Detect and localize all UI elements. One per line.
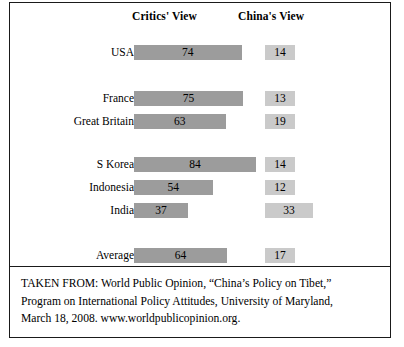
bar-value-china: 17	[274, 248, 286, 263]
bar-chinas-view: 12	[265, 180, 295, 195]
bar-value-critics: 37	[155, 203, 167, 218]
bar-chart-plot-area: USA7414France7513Great Britain6319S Kore…	[10, 29, 390, 264]
bar-chinas-view: 33	[265, 203, 313, 218]
bar-value-china: 19	[274, 114, 286, 129]
bar-value-china: 14	[274, 45, 286, 60]
bar-value-critics: 63	[174, 114, 186, 129]
bar-value-critics: 64	[175, 248, 187, 263]
bar-chinas-view: 14	[265, 45, 295, 60]
bar-row: Great Britain6319	[10, 114, 390, 129]
bar-row-label: Indonesia	[89, 180, 134, 195]
bar-row-label: Great Britain	[74, 114, 134, 129]
bar-chinas-view: 17	[265, 248, 295, 263]
column-header-chinas-view: China's View	[238, 10, 304, 22]
source-line-3: March 18, 2008. www.worldpublicopinion.o…	[21, 310, 380, 328]
bar-row: Indonesia5412	[10, 180, 390, 195]
bar-chinas-view: 19	[265, 114, 295, 129]
figure-frame: Critics' View China's View USA7414France…	[9, 2, 391, 338]
section-divider	[10, 266, 390, 267]
bar-value-critics: 84	[189, 157, 201, 172]
column-header-critics-view: Critics' View	[132, 10, 197, 22]
bar-row: S Korea8414	[10, 157, 390, 172]
bar-value-critics: 54	[168, 180, 180, 195]
bar-critics-view: 37	[134, 203, 188, 218]
bar-row-label: S Korea	[97, 157, 134, 172]
bar-row: France7513	[10, 91, 390, 106]
bar-critics-view: 75	[134, 91, 243, 106]
bar-row-label: India	[110, 203, 134, 218]
bar-value-china: 14	[274, 157, 286, 172]
bar-row-label: Average	[96, 248, 134, 263]
source-line-2: Program on International Policy Attitude…	[21, 293, 380, 311]
bar-row-label: USA	[111, 45, 134, 60]
bar-row: Average6417	[10, 248, 390, 263]
bar-chinas-view: 14	[265, 157, 295, 172]
chart-column-headers: Critics' View China's View	[10, 3, 390, 29]
bar-value-china: 33	[283, 203, 295, 218]
bar-row: USA7414	[10, 45, 390, 60]
bar-row: India3733	[10, 203, 390, 218]
bar-critics-view: 84	[134, 157, 256, 172]
bar-row-label: France	[103, 91, 134, 106]
bar-value-china: 12	[274, 180, 286, 195]
bar-critics-view: 54	[134, 180, 213, 195]
bar-critics-view: 63	[134, 114, 226, 129]
bar-critics-view: 64	[134, 248, 227, 263]
source-line-1: TAKEN FROM: World Public Opinion, “China…	[21, 275, 380, 293]
bar-value-critics: 75	[183, 91, 195, 106]
bar-value-critics: 74	[182, 45, 194, 60]
bar-critics-view: 74	[134, 45, 242, 60]
source-citation: TAKEN FROM: World Public Opinion, “China…	[21, 275, 380, 328]
bar-chinas-view: 13	[265, 91, 295, 106]
bar-value-china: 13	[274, 91, 286, 106]
